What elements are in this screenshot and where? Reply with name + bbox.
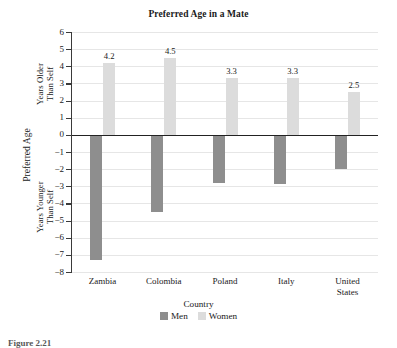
zero-line — [72, 135, 378, 136]
y-tick-label: −7 — [38, 250, 64, 259]
legend-item-women[interactable]: Women — [198, 311, 237, 321]
figure-caption: Figure 2.21 — [8, 338, 51, 348]
y-tick-label: −8 — [38, 268, 64, 277]
x-tick-label-line: Zambia — [68, 276, 138, 287]
gridline — [72, 272, 378, 273]
y-tick-label: −6 — [38, 233, 64, 242]
gridline — [72, 221, 378, 222]
y-tick-label: −5 — [38, 216, 64, 225]
legend-label-women: Women — [209, 311, 237, 321]
bar-men[interactable] — [151, 135, 163, 212]
y-tick-label: 4 — [38, 62, 64, 71]
y-tick-label: 6 — [38, 28, 64, 37]
bar-value-label: 4.5 — [150, 46, 190, 56]
y-tick-label: 3 — [38, 79, 64, 88]
y-tick-label: 5 — [38, 45, 64, 54]
bar-men[interactable] — [274, 135, 286, 184]
x-tick-label: Italy — [251, 276, 321, 287]
bar-value-label: 3.3 — [212, 66, 252, 76]
gridline — [72, 238, 378, 239]
bar-men[interactable] — [90, 135, 102, 260]
bar-women[interactable] — [226, 78, 238, 135]
bar-value-label: 3.3 — [273, 66, 313, 76]
x-tick-label: Poland — [190, 276, 260, 287]
y-tick-label: −1 — [38, 148, 64, 157]
x-axis-title: Country — [0, 299, 397, 309]
x-tick-label-line: Poland — [190, 276, 260, 287]
y-tick-label: 1 — [38, 113, 64, 122]
gridline — [72, 255, 378, 256]
bar-women[interactable] — [348, 92, 360, 135]
x-tick-label-line: Colombia — [129, 276, 199, 287]
legend-swatch-women-icon — [198, 312, 206, 320]
bar-women[interactable] — [287, 78, 299, 135]
gridline — [72, 169, 378, 170]
bar-men[interactable] — [335, 135, 347, 169]
y-axis-title: Preferred Age — [22, 95, 32, 215]
legend-item-men[interactable]: Men — [160, 311, 188, 321]
y-tick-label: 2 — [38, 96, 64, 105]
chart-title: Preferred Age in a Mate — [0, 9, 397, 19]
y-tick-label: −3 — [38, 182, 64, 191]
y-tick-label: −4 — [38, 199, 64, 208]
bar-women[interactable] — [164, 58, 176, 135]
y-tick-label: −2 — [38, 165, 64, 174]
bar-value-label: 2.5 — [334, 80, 374, 90]
bar-men[interactable] — [213, 135, 225, 183]
y-tick-label: 0 — [38, 130, 64, 139]
gridline — [72, 186, 378, 187]
x-tick-label-line: United — [312, 276, 382, 287]
gridline — [72, 203, 378, 204]
x-tick-label-line: States — [312, 287, 382, 298]
chart-legend: Men Women — [0, 311, 397, 321]
bar-women[interactable] — [103, 63, 115, 135]
gridline — [72, 152, 378, 153]
x-tick-label-line: Italy — [251, 276, 321, 287]
x-tick-label: Zambia — [68, 276, 138, 287]
x-tick-label: UnitedStates — [312, 276, 382, 297]
plot-area: 4.24.53.33.32.5 — [72, 32, 378, 272]
legend-label-men: Men — [171, 311, 188, 321]
bar-value-label: 4.2 — [89, 51, 129, 61]
legend-swatch-men-icon — [160, 312, 168, 320]
x-tick-label: Colombia — [129, 276, 199, 287]
gridline — [72, 32, 378, 33]
